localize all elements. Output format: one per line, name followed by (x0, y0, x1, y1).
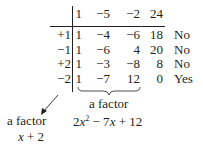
divisor-label: +1 (40, 28, 71, 42)
table-cell: −4 (90, 28, 110, 42)
table-cell: −6 (90, 43, 110, 57)
result-label: No (174, 28, 190, 42)
table-cell: 12 (120, 72, 140, 86)
expr-part: − 7 (89, 114, 109, 129)
table-cell: 20 (143, 43, 163, 57)
divisor-label: −2 (40, 72, 71, 86)
coefficient: 1 (72, 7, 82, 21)
result-label: Yes (174, 72, 193, 86)
table-cell: −8 (120, 57, 140, 71)
coefficient: 24 (143, 7, 163, 21)
expr-part: + 2 (24, 129, 44, 144)
table-cell: −6 (120, 28, 140, 42)
result-label: No (174, 43, 190, 57)
arrow-shaft (43, 95, 58, 112)
table-cell: −7 (90, 72, 110, 86)
divisor-label: +2 (40, 57, 71, 71)
divisor-label: −1 (40, 43, 71, 57)
table-cell: −3 (90, 57, 110, 71)
table-cell: 1 (72, 57, 82, 71)
table-cell: 1 (72, 43, 82, 57)
result-label: No (174, 57, 190, 71)
table-cell: 18 (143, 28, 163, 42)
coefficient: −5 (90, 7, 110, 21)
expr-part: + 12 (115, 114, 142, 129)
divisor-factor-label: a factor (7, 114, 46, 128)
underbrace (78, 87, 140, 95)
quotient-factor-label: a factor (89, 97, 128, 111)
quotient-expression: 2x2 − 7x + 12 (73, 112, 142, 129)
table-cell: 1 (72, 28, 82, 42)
table-cell: 0 (143, 72, 163, 86)
table-cell: 4 (120, 43, 140, 57)
table-cell: 8 (143, 57, 163, 71)
coefficient: −2 (120, 7, 140, 21)
table-cell: 1 (72, 72, 82, 86)
divisor-expression: x + 2 (18, 130, 44, 144)
